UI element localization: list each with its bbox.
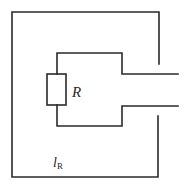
inner-loop-upper bbox=[57, 53, 178, 74]
inner-loop-lower bbox=[57, 105, 178, 126]
circuit-diagram bbox=[0, 0, 189, 189]
resistor-symbol bbox=[47, 74, 66, 105]
outer-loop-upper bbox=[12, 12, 159, 177]
loop-label: lR bbox=[53, 155, 63, 171]
resistor-label: R bbox=[72, 84, 81, 101]
loop-label-subscript: R bbox=[57, 161, 63, 171]
